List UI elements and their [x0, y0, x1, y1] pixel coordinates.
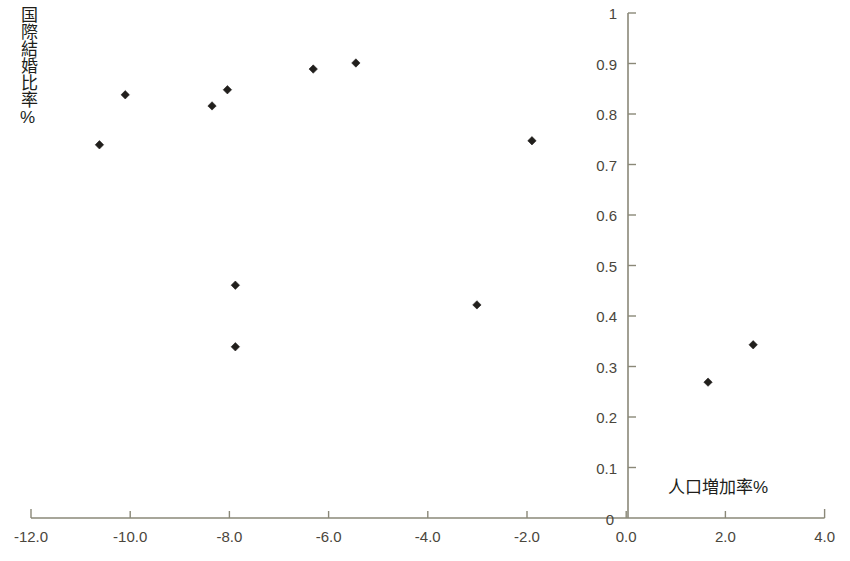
- data-point-marker: [121, 91, 129, 99]
- data-point-marker: [231, 281, 239, 289]
- y-tick-label: 0.9: [596, 56, 617, 73]
- data-point-marker: [309, 65, 317, 73]
- chart-page: 国際結婚比率% 人口増加率% -12.0-10.0-8.0-6.0-4.0-2.…: [0, 0, 850, 561]
- y-tick-label: 0.3: [596, 359, 617, 376]
- scatter-plot: -12.0-10.0-8.0-6.0-4.0-2.00.02.04.0 00.1…: [0, 0, 850, 561]
- y-tick-label: 0.7: [596, 157, 617, 174]
- x-tick-label: 4.0: [814, 528, 835, 545]
- y-axis: 00.10.20.30.40.50.60.70.80.91: [596, 5, 636, 528]
- x-tick-label: -12.0: [14, 528, 48, 545]
- data-points: [95, 59, 757, 387]
- x-tick-label: -2.0: [514, 528, 540, 545]
- x-tick-label: -10.0: [113, 528, 147, 545]
- x-axis: -12.0-10.0-8.0-6.0-4.0-2.00.02.04.0: [14, 509, 835, 545]
- y-tick-label: 1: [609, 5, 617, 22]
- x-tick-label: -4.0: [415, 528, 441, 545]
- y-tick-label: 0.4: [596, 308, 617, 325]
- y-tick-label: 0.2: [596, 409, 617, 426]
- data-point-marker: [749, 341, 757, 349]
- x-tick-label: -6.0: [316, 528, 342, 545]
- data-point-marker: [352, 59, 360, 67]
- y-tick-label: 0.1: [596, 460, 617, 477]
- data-point-marker: [223, 86, 231, 94]
- y-tick-label: 0.5: [596, 258, 617, 275]
- data-point-marker: [528, 137, 536, 145]
- data-point-marker: [95, 141, 103, 149]
- x-tick-label: 2.0: [715, 528, 736, 545]
- data-point-marker: [231, 343, 239, 351]
- data-point-marker: [473, 301, 481, 309]
- x-tick-label: -8.0: [216, 528, 242, 545]
- x-tick-label: 0.0: [616, 528, 637, 545]
- y-tick-label: 0: [606, 511, 614, 528]
- y-tick-label: 0.8: [596, 106, 617, 123]
- data-point-marker: [704, 378, 712, 386]
- y-tick-label: 0.6: [596, 207, 617, 224]
- data-point-marker: [208, 102, 216, 110]
